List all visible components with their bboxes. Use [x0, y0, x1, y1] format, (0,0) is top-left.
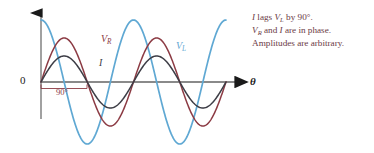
- curve-label-i: I: [99, 57, 102, 68]
- curve-label-v-r: VR: [101, 33, 112, 46]
- annotation-note: I lags VL by 90°. VR and I are in phase.…: [252, 12, 370, 50]
- annotation-line-1: I lags VL by 90°.: [252, 12, 370, 25]
- x-axis-label: θ: [250, 75, 256, 87]
- curve-label-v-l: VL: [176, 40, 186, 53]
- annotation-line-3: Amplitudes are arbitrary.: [252, 38, 370, 49]
- origin-label: 0: [20, 74, 26, 86]
- phase-span-label: 90°: [56, 87, 68, 97]
- annotation-line-2: VR and I are in phase.: [252, 25, 370, 38]
